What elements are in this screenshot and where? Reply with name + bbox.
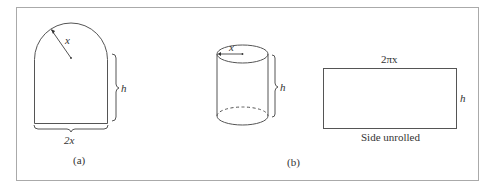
caption-b: (b) xyxy=(287,156,300,169)
cylinder-bottom-front xyxy=(217,116,268,125)
center-point xyxy=(70,57,72,59)
width-label-a: 2x xyxy=(64,134,75,146)
unrolled-width-label: 2πx xyxy=(381,53,398,65)
arrowhead-icon xyxy=(51,29,55,34)
panel-b-cylinder xyxy=(217,45,278,125)
arrowhead-icon xyxy=(218,52,222,56)
caption-a: (a) xyxy=(73,154,86,167)
center-point-b xyxy=(242,53,244,55)
unrolled-caption: Side unrolled xyxy=(361,131,420,143)
arch-shape xyxy=(35,23,108,124)
width-brace xyxy=(34,125,108,132)
diagram-canvas: x h 2x (a) x h (b) 2πx h Side unrolled xyxy=(0,0,493,189)
height-brace xyxy=(112,54,119,121)
radius-label-a: x xyxy=(64,34,70,46)
radius-label-b: x xyxy=(228,41,234,53)
cylinder-bottom-back xyxy=(217,107,268,116)
height-brace-b xyxy=(272,55,278,117)
panel-a xyxy=(34,23,119,132)
unrolled-rectangle xyxy=(324,69,457,129)
unrolled-height-label: h xyxy=(460,92,466,104)
height-label-b: h xyxy=(280,81,286,93)
height-label-a: h xyxy=(121,82,127,94)
figure-frame xyxy=(17,8,479,181)
